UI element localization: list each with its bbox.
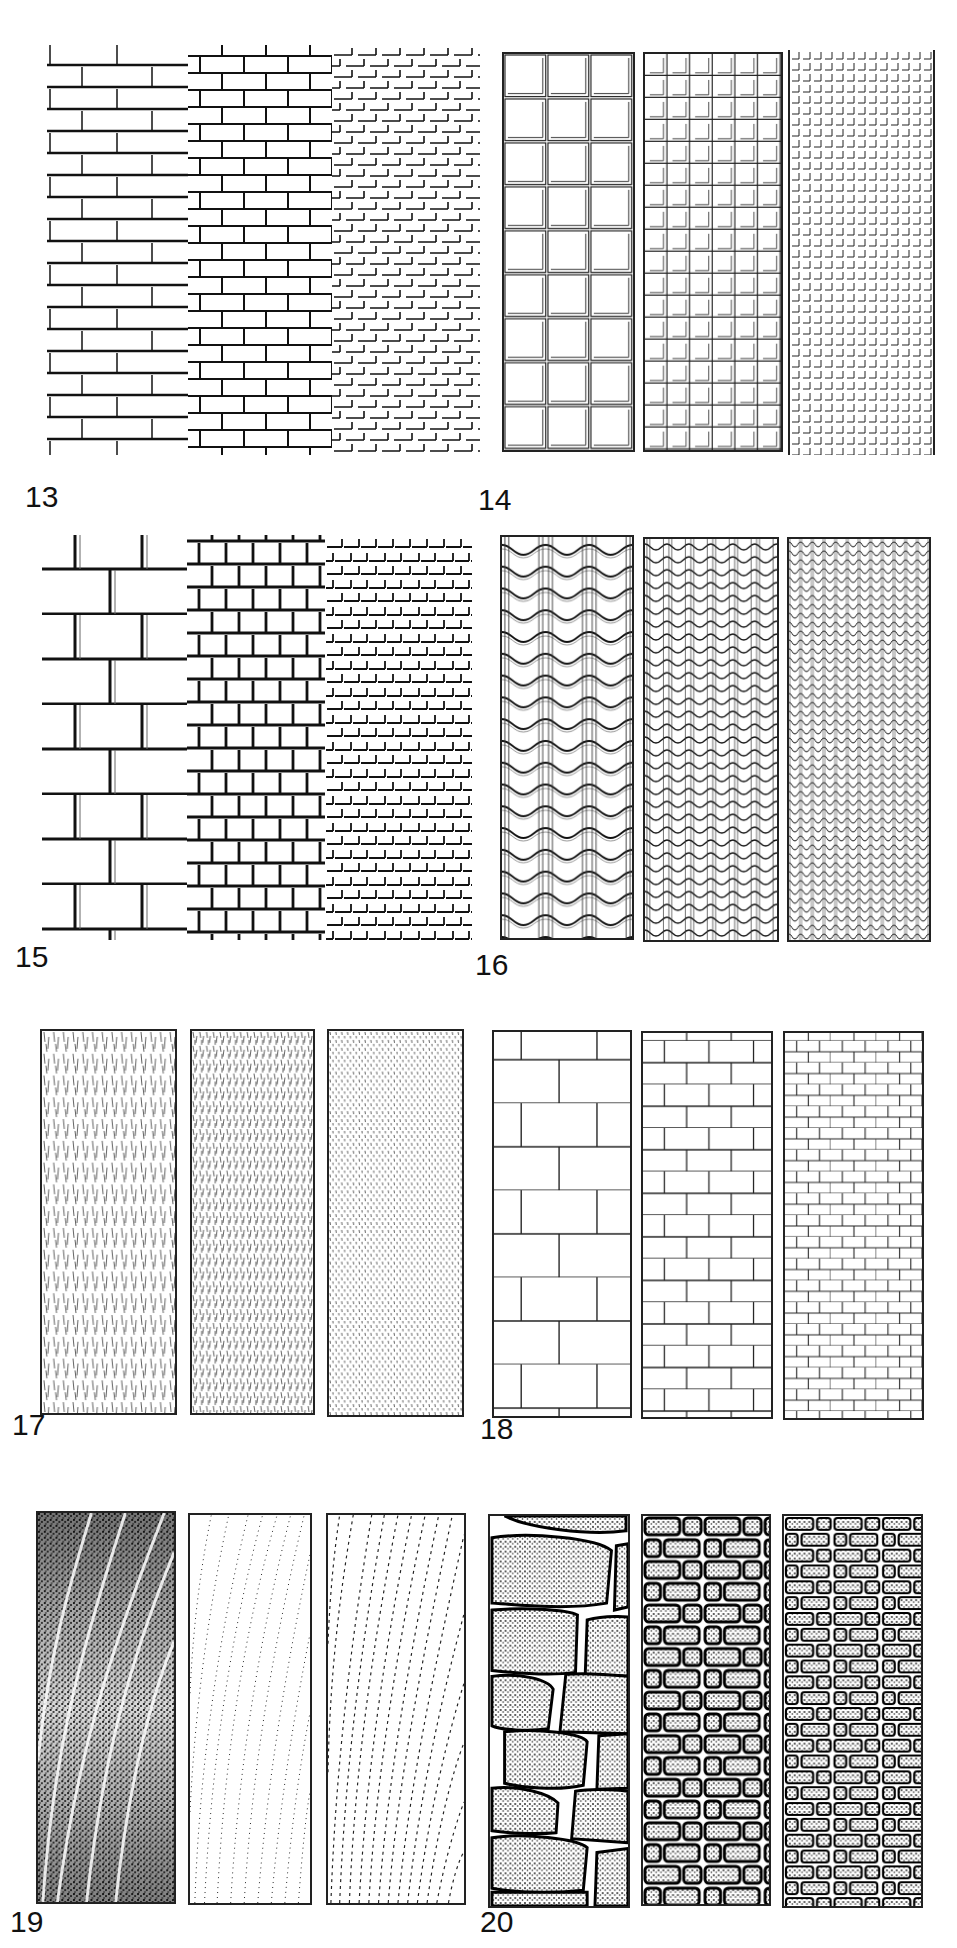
figure-number-15: 15	[15, 942, 48, 972]
brick-pattern-large	[47, 45, 188, 455]
brick-pattern-small	[332, 45, 480, 455]
fig18-panel-small	[783, 1031, 924, 1420]
brick-pattern-medium	[188, 45, 332, 455]
tile-grid-3col	[504, 54, 633, 450]
fig20-panel-small	[782, 1514, 923, 1908]
fig14-panel-medium	[643, 52, 783, 452]
fig19-panel-light	[188, 1513, 312, 1905]
fig19-panel-dashed	[326, 1513, 466, 1905]
fig15-panel-large	[42, 535, 187, 940]
figure-number-16: 16	[475, 950, 508, 980]
stroke-hatch-long	[42, 1031, 175, 1413]
figure-number-19: 19	[10, 1907, 43, 1937]
fig15-panel-medium	[187, 535, 325, 940]
figure-number-17: 17	[12, 1410, 45, 1440]
rubble-stone-medium	[643, 1516, 769, 1904]
dotted-grain-light	[190, 1515, 310, 1903]
tile-grid-13col	[790, 50, 933, 455]
stroke-hatch-dotted	[329, 1031, 462, 1415]
figure-number-13: 13	[25, 482, 58, 512]
figure-number-18: 18	[480, 1414, 513, 1444]
fig17-panel-long	[40, 1029, 177, 1415]
fig14-panel-large	[502, 52, 635, 452]
figure-number-20: 20	[480, 1907, 513, 1937]
shadow-brick-small	[326, 535, 472, 940]
fig15-panel-small	[326, 535, 472, 940]
tile-grid-6col	[645, 54, 781, 450]
dashed-grain	[328, 1515, 464, 1903]
shadow-brick-large	[42, 535, 187, 940]
shadow-brick-medium	[187, 535, 325, 940]
rubble-stone-large	[490, 1516, 628, 1906]
fig17-panel-medium	[190, 1029, 315, 1415]
fig19-panel-dark	[36, 1511, 176, 1904]
fig16-panel-medium	[643, 537, 779, 942]
fig14-panel-small	[788, 50, 935, 455]
stipple-grain-dark	[38, 1513, 174, 1902]
block-bond-small	[785, 1033, 922, 1418]
fig18-panel-large	[492, 1030, 632, 1418]
fig17-panel-dotted	[327, 1029, 464, 1417]
wave-tile-small	[789, 539, 929, 940]
fig20-panel-medium	[641, 1514, 771, 1906]
fig13-panel-small	[332, 45, 480, 455]
fig16-panel-small	[787, 537, 931, 942]
block-bond-large	[494, 1032, 630, 1416]
fig13-panel-large	[47, 45, 188, 455]
fig20-panel-large	[488, 1514, 630, 1908]
wave-tile-medium	[645, 539, 777, 940]
wave-tile-large	[502, 537, 632, 938]
figure-number-14: 14	[478, 485, 511, 515]
rubble-stone-small	[784, 1516, 921, 1906]
fig13-panel-medium	[188, 45, 332, 455]
fig16-panel-large	[500, 535, 634, 940]
fig18-panel-medium	[641, 1031, 773, 1419]
block-bond-medium	[643, 1033, 771, 1417]
stroke-hatch-medium	[192, 1031, 313, 1413]
